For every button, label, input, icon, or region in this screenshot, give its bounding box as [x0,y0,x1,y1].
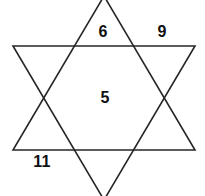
region-label-lower-left-outside: 11 [33,154,50,170]
hexagram-figure: 6 9 5 11 [0,0,205,196]
region-label-center-hexagon: 5 [100,90,109,106]
downward-triangle [13,46,195,196]
region-label-upper-right-outside: 9 [157,24,166,40]
region-label-top-point: 6 [98,24,107,40]
